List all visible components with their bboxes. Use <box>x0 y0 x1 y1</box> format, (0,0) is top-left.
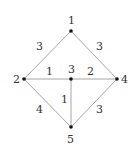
node-label-3: 3 <box>68 63 75 76</box>
edge-weight-2-3: 1 <box>46 65 53 78</box>
edge-4-5 <box>71 79 117 127</box>
edge-weight-3-4: 2 <box>87 65 94 78</box>
node-label-2: 2 <box>13 73 20 86</box>
node-1 <box>69 29 73 33</box>
edge-weight-4-5: 3 <box>96 103 103 116</box>
edge-weight-1-2: 3 <box>36 40 43 53</box>
edge-weight-2-5: 4 <box>36 103 43 116</box>
edge-1-4 <box>71 31 117 79</box>
edge-weight-1-4: 3 <box>96 40 103 53</box>
edge-weight-3-5: 1 <box>61 93 68 106</box>
weighted-graph: 3 3 1 2 1 4 3 1 2 3 4 5 <box>0 0 135 154</box>
node-2 <box>22 77 26 81</box>
node-label-4: 4 <box>121 73 128 86</box>
node-3 <box>69 77 73 81</box>
node-5 <box>69 125 73 129</box>
node-label-5: 5 <box>67 133 74 146</box>
node-label-1: 1 <box>68 14 75 27</box>
node-4 <box>115 77 119 81</box>
